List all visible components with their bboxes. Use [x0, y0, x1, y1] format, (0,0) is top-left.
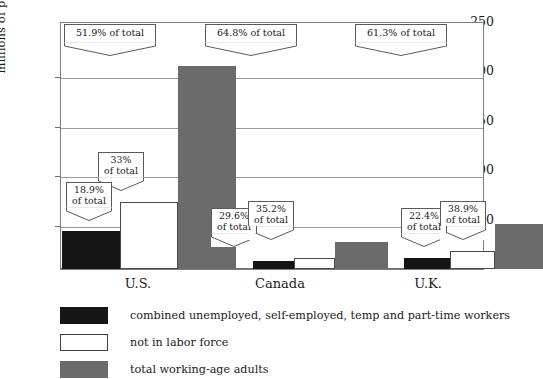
bar-uk-total-working-age — [495, 224, 543, 269]
callout-pointer-icon — [66, 207, 112, 221]
bar-canada-total-working-age — [335, 242, 388, 269]
callout-line-1: 38.9% — [445, 204, 481, 215]
legend-label-total-working-age: total working-age adults — [130, 363, 269, 376]
callout-line-1: 29.6% — [216, 211, 252, 222]
callout-uk-white-percent: 38.9% of total — [440, 201, 486, 240]
bar-canada-combined-workers — [253, 261, 294, 269]
callout-line-2: of total — [253, 215, 289, 226]
x-axis-label-us: U.S. — [88, 276, 188, 291]
callout-line-1: 18.9% — [71, 185, 107, 196]
legend-swatch-gray-icon — [60, 361, 108, 378]
legend-swatch-white-icon — [60, 334, 108, 351]
callout-line-2: of total — [103, 166, 139, 177]
callout-uk-total-text: 61.3% of total — [355, 24, 447, 42]
callout-line-1: 22.4% — [406, 211, 442, 222]
callout-us-black-text: 18.9% of total — [66, 182, 112, 207]
callout-us-black-percent: 18.9% of total — [66, 182, 112, 221]
callout-us-total-text: 51.9% of total — [64, 24, 156, 42]
gridline-150 — [61, 128, 483, 129]
gridline-200 — [61, 78, 483, 79]
x-axis-label-canada: Canada — [230, 276, 330, 291]
legend-label-not-in-labor-force: not in labor force — [130, 336, 229, 349]
callout-line-2: of total — [445, 215, 481, 226]
callout-us-white-text: 33% of total — [98, 152, 144, 177]
callout-canada-total-text: 64.8% of total — [205, 24, 297, 42]
callout-uk-total-percent: 61.3% of total — [355, 24, 447, 56]
legend-swatch-black-icon — [60, 307, 108, 324]
bar-uk-combined-workers — [404, 258, 450, 269]
x-axis-label-uk: U.K. — [378, 276, 478, 291]
callout-line-2: of total — [406, 222, 442, 233]
callout-uk-white-text: 38.9% of total — [440, 201, 486, 226]
callout-canada-total-percent: 64.8% of total — [205, 24, 297, 56]
chart-legend: combined unemployed, self-employed, temp… — [60, 303, 490, 379]
callout-us-total-percent: 51.9% of total — [64, 24, 156, 56]
legend-item-not-in-labor-force: not in labor force — [60, 330, 490, 354]
y-axis-title: millions of people — [0, 0, 8, 96]
legend-label-combined-workers: combined unemployed, self-employed, temp… — [130, 309, 510, 322]
callout-pointer-icon — [205, 42, 297, 56]
callout-line-1: 33% — [103, 155, 139, 166]
bar-canada-not-in-labor-force — [294, 258, 335, 269]
bar-uk-not-in-labor-force — [450, 251, 495, 269]
callout-canada-white-percent: 35.2% of total — [248, 201, 294, 240]
bar-us-not-in-labor-force — [120, 202, 178, 269]
callout-pointer-icon — [64, 42, 156, 56]
callout-line-2: of total — [71, 196, 107, 207]
callout-pointer-icon — [355, 42, 447, 56]
legend-item-total-working-age: total working-age adults — [60, 357, 490, 379]
callout-line-1: 35.2% — [253, 204, 289, 215]
legend-item-combined-workers: combined unemployed, self-employed, temp… — [60, 303, 490, 327]
callout-line-2: of total — [216, 222, 252, 233]
callout-canada-white-text: 35.2% of total — [248, 201, 294, 226]
bar-us-combined-workers — [62, 231, 120, 269]
